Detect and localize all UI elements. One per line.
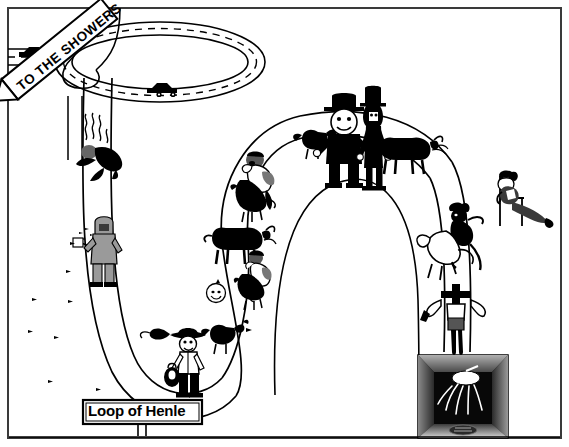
loop-of-henle-illustration <box>0 0 569 447</box>
shower-stall <box>418 355 508 438</box>
loop-of-henle-sign-label: Loop of Henle <box>88 402 185 419</box>
illustration-canvas: Loop of Henle TO THE SHOWERS <box>0 0 569 447</box>
